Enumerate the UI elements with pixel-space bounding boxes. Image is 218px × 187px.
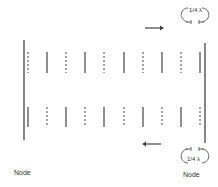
quarter-wave-label-top: 1/4 λ — [189, 7, 202, 13]
top-row-bars — [28, 52, 200, 73]
quarter-wave-label-bottom: 1/4 λ — [187, 156, 200, 162]
arrow-right-icon — [145, 26, 164, 31]
arrow-left-icon — [142, 142, 161, 147]
node-label-right: Node — [183, 171, 200, 178]
node-label-left: Node — [14, 169, 31, 176]
standing-wave-diagram — [0, 0, 218, 187]
bottom-row-bars — [28, 107, 200, 127]
